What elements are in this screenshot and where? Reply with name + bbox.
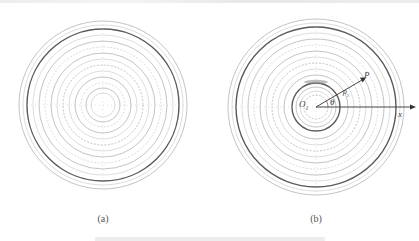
x-axis-label: x [398, 109, 402, 119]
x-axis-arrow-icon [410, 105, 416, 110]
concentric-circles-figure [0, 0, 419, 241]
radius-label: ρ1 [343, 87, 349, 98]
point-label: P [364, 70, 370, 80]
angle-label: θ [330, 97, 334, 107]
angle-arc [326, 101, 328, 107]
shaded-mark [304, 80, 328, 84]
cropped-text-bottom [95, 237, 325, 241]
caption-a: (a) [97, 213, 108, 224]
origin-label: O1 [299, 99, 309, 111]
caption-b: (b) [310, 213, 322, 224]
panel-a-diagram [19, 21, 187, 189]
